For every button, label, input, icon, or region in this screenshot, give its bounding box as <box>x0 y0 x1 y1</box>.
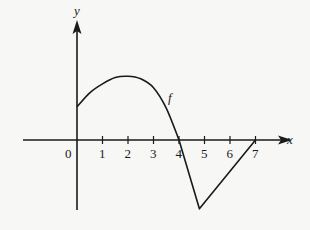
x-tick-label: 6 <box>227 146 234 161</box>
x-tick-label: 7 <box>252 146 259 161</box>
x-tick-label: 1 <box>99 146 106 161</box>
x-tick-label: 5 <box>201 146 208 161</box>
x-tick-label: 3 <box>150 146 157 161</box>
function-graph: x y 1234567 0 f <box>0 0 310 230</box>
curve-label-f: f <box>168 90 174 105</box>
origin-label: 0 <box>65 146 72 161</box>
x-axis-label: x <box>286 132 293 147</box>
function-f-curve <box>77 76 256 209</box>
y-axis-label: y <box>72 3 80 18</box>
x-tick-label: 2 <box>125 146 132 161</box>
